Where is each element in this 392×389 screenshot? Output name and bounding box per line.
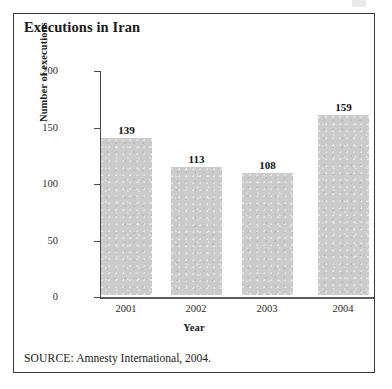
bar-2002 [171,167,222,295]
bar-value-2004: 159 [318,102,369,113]
y-tick-150 [94,128,101,129]
y-tick-100 [94,184,101,185]
source-label: SOURCE: [24,352,74,364]
y-tick-0 [94,297,101,298]
y-tick-label-50: 50 [18,236,58,247]
bar-2004 [318,115,369,295]
y-tick-label-150: 150 [18,123,58,134]
y-tick-200 [94,71,101,72]
bar-2001 [101,138,152,295]
x-axis-line [100,297,374,299]
bar-value-2003: 108 [242,160,293,171]
bar-value-2001: 139 [101,125,152,136]
bar-chart-plot: 200 150 100 50 0 Number of executions 13… [14,14,374,372]
y-tick-50 [94,241,101,242]
y-tick-label-0: 0 [18,292,58,303]
y-axis-title: Number of executions [38,22,49,122]
bar-2003 [242,173,293,295]
scan-artifact [352,0,366,7]
x-tick-label-2003: 2003 [237,304,297,315]
y-tick-label-100: 100 [18,179,58,190]
source-text: Amnesty International, 2004. [74,352,211,364]
x-tick-label-2001: 2001 [96,304,156,315]
x-axis-title: Year [14,322,374,333]
x-tick-label-2004: 2004 [313,304,373,315]
x-tick-label-2002: 2002 [166,304,226,315]
bar-value-2002: 113 [171,154,222,165]
source-note: SOURCE: Amnesty International, 2004. [24,352,211,364]
figure-frame: Executions in Iran 200 150 100 50 0 Numb… [13,13,375,373]
